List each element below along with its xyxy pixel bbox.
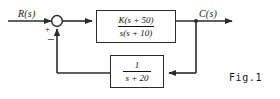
block-diagram: R(s) C(s) + − K(s + 50) s(s + 10) 1 s + …	[0, 0, 280, 99]
feedback-numerator: 1	[133, 60, 142, 71]
forward-transfer-function-block: K(s + 50) s(s + 10)	[96, 10, 176, 43]
forward-numerator: K(s + 50)	[116, 15, 155, 26]
feedback-denominator: s + 20	[123, 71, 150, 83]
figure-caption: Fig.1	[229, 72, 262, 83]
summing-junction-minus-sign: −	[47, 33, 54, 46]
forward-denominator: s(s + 10)	[118, 26, 155, 38]
feedback-transfer-function: 1 s + 20	[123, 60, 150, 83]
input-signal-label: R(s)	[18, 8, 35, 19]
output-signal-label: C(s)	[199, 8, 217, 19]
forward-transfer-function: K(s + 50) s(s + 10)	[116, 15, 155, 38]
feedback-transfer-function-block: 1 s + 20	[110, 55, 164, 88]
summing-junction	[52, 16, 63, 27]
